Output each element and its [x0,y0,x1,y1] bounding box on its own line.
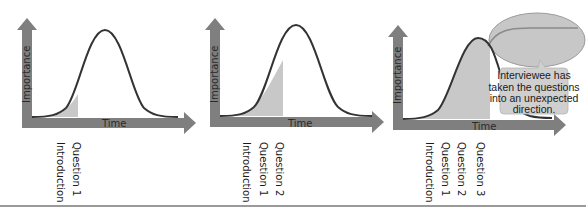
y-axis-label: Importance [209,46,220,103]
tick-question-1: Question 1 [71,142,82,196]
shaded-progress-area [220,60,283,116]
x-axis-label: Time [471,121,496,132]
x-axis-label: Time [287,118,312,129]
callout-bubble: Interviewee has taken the questions into… [488,60,579,115]
tick-introduction: Introduction [424,142,435,203]
panel-3: Interviewee has taken the questions into… [388,13,585,203]
tick-introduction: Introduction [241,142,252,203]
callout-line-4: direction. [513,103,556,115]
y-axis-label: Importance [392,47,403,104]
callout-line-1: Interviewee has [497,69,571,81]
shaded-progress-area [403,38,490,119]
tick-question-1: Question 1 [440,142,451,196]
interview-progress-diagram: Importance Time Introduction Question 1 … [0,0,586,213]
tick-question-3: Question 3 [475,142,486,196]
highlight-ellipse [489,13,585,67]
panel-2: Importance Time Introduction Question 1 … [205,18,384,203]
y-axis-label: Importance [21,46,32,103]
x-axis-label: Time [101,118,126,129]
panel-1: Importance Time Introduction Question 1 [17,18,196,203]
tick-question-1: Question 1 [258,142,269,196]
bell-curve [32,30,178,117]
tick-question-2: Question 2 [274,142,285,196]
tick-question-2: Question 2 [456,142,467,196]
tick-introduction: Introduction [55,142,66,203]
bell-curve [220,25,372,116]
bottom-divider [0,205,586,207]
